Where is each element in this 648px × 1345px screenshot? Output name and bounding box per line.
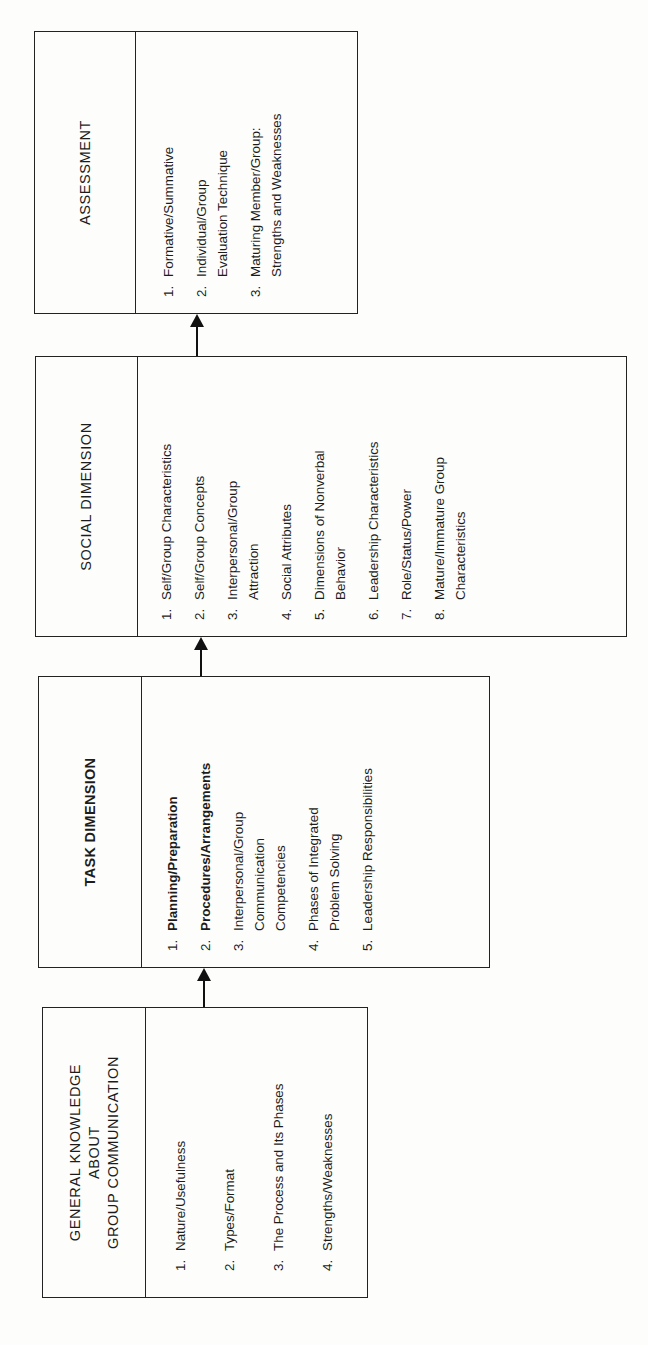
social-dimension-items: 1. Self/Group Characteristics 2. Self/Gr… bbox=[138, 357, 626, 636]
list-item: 2. Self/Group Concepts bbox=[189, 367, 210, 620]
list-item: 2. Individual/Group Evaluation Technique bbox=[191, 42, 233, 297]
list-item: 4. Phases of Integrated Problem Solving bbox=[303, 687, 345, 951]
assessment-box: ASSESSMENT 1. Formative/Summative 2. Ind… bbox=[34, 31, 358, 314]
list-item: 8. Mature/Immature Group Characteristics bbox=[429, 367, 471, 620]
assessment-title: ASSESSMENT bbox=[35, 32, 136, 313]
list-item: 3. The Process and Its Phases bbox=[268, 1018, 289, 1271]
social-dimension-box: SOCIAL DIMENSION 1. Self/Group Character… bbox=[35, 356, 627, 637]
general-knowledge-title: GENERAL KNOWLEDGE ABOUT GROUP COMMUNICAT… bbox=[43, 1008, 146, 1297]
arrow-up-icon bbox=[202, 968, 206, 1007]
list-item: 7. Role/Status/Power bbox=[396, 367, 417, 620]
list-item: 3. Interpersonal/Group Attraction bbox=[222, 367, 264, 620]
list-item: 5. Dimensions of Nonverbal Behavior bbox=[309, 367, 351, 620]
list-item: 3. Maturing Member/Group: Strengths and … bbox=[245, 42, 287, 297]
list-item: 1. Self/Group Characteristics bbox=[156, 367, 177, 620]
list-item: 2. Procedures/Arrangements bbox=[195, 687, 216, 951]
task-dimension-items: 1. Planning/Preparation 2. Procedures/Ar… bbox=[142, 677, 489, 967]
task-dimension-box: TASK DIMENSION 1. Planning/Preparation 2… bbox=[38, 676, 490, 968]
assessment-items: 1. Formative/Summative 2. Individual/Gro… bbox=[136, 32, 357, 313]
list-item: 1. Nature/Usefulness bbox=[170, 1018, 191, 1271]
general-knowledge-items: 1. Nature/Usefulness 2. Types/Format 3. … bbox=[146, 1008, 367, 1297]
social-dimension-title: SOCIAL DIMENSION bbox=[36, 357, 138, 636]
list-item: 6. Leadership Characteristics bbox=[363, 367, 384, 620]
list-item: 5. Leadership Responsibilities bbox=[357, 687, 378, 951]
arrow-up-icon bbox=[199, 637, 203, 677]
task-dimension-title: TASK DIMENSION bbox=[39, 677, 142, 967]
list-item: 4. Strengths/Weaknesses bbox=[317, 1018, 338, 1271]
list-item: 2. Types/Format bbox=[219, 1018, 240, 1271]
general-knowledge-box: GENERAL KNOWLEDGE ABOUT GROUP COMMUNICAT… bbox=[42, 1007, 368, 1298]
list-item: 1. Planning/Preparation bbox=[162, 687, 183, 951]
list-item: 4. Social Attributes bbox=[276, 367, 297, 620]
list-item: 3. Interpersonal/Group Communication Com… bbox=[228, 687, 291, 951]
arrow-up-icon bbox=[195, 314, 199, 356]
list-item: 1. Formative/Summative bbox=[158, 42, 179, 297]
